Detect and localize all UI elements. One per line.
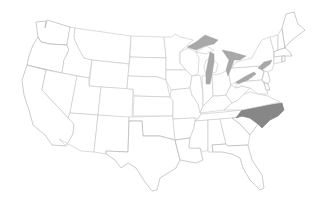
us-states-map: [0, 0, 330, 213]
state-maine[interactable]: [282, 12, 305, 48]
state-north-dakota[interactable]: [130, 36, 166, 58]
map-canvas: [0, 0, 330, 213]
state-wyoming[interactable]: [89, 60, 129, 89]
state-kansas[interactable]: [133, 96, 173, 116]
state-rhode-island[interactable]: [282, 56, 285, 62]
state-florida[interactable]: [212, 144, 264, 190]
state-washington[interactable]: [36, 20, 70, 45]
state-colorado[interactable]: [98, 87, 133, 118]
state-new-mexico[interactable]: [94, 115, 129, 154]
state-connecticut[interactable]: [274, 56, 282, 64]
state-nebraska[interactable]: [127, 76, 170, 97]
lake-superior: [187, 35, 218, 50]
state-iowa[interactable]: [166, 70, 192, 90]
states-layer: [22, 12, 305, 191]
